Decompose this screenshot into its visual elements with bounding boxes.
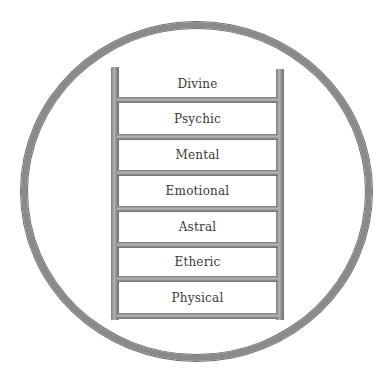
level-astral: Astral xyxy=(119,212,276,242)
level-psychic: Psychic xyxy=(119,103,276,134)
ladder-left-rail xyxy=(111,67,119,320)
level-mental: Mental xyxy=(119,140,276,170)
level-etheric: Etheric xyxy=(119,248,276,276)
ladder-rung xyxy=(117,313,278,319)
level-physical: Physical xyxy=(119,282,276,313)
ladder-right-rail xyxy=(276,69,284,320)
level-divine: Divine xyxy=(119,70,276,97)
level-emotional: Emotional xyxy=(119,176,276,206)
